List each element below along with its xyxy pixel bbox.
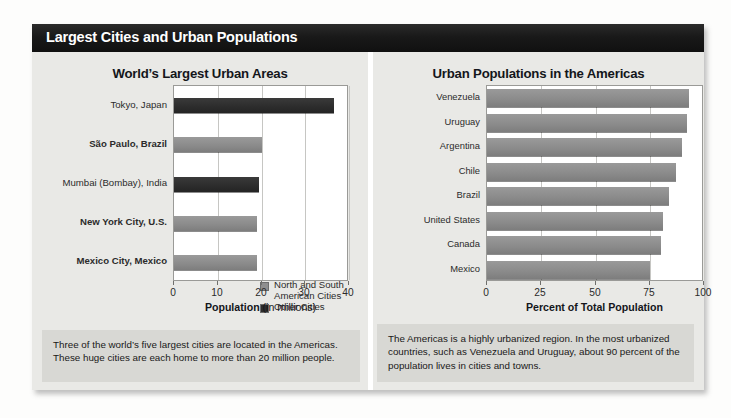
axis-tick-label: 25: [520, 287, 560, 298]
right-caption-text: The Americas is a highly urbanized regio…: [388, 332, 684, 372]
left-chart-plot-area: [173, 85, 348, 281]
bar: [174, 255, 257, 270]
category-label: Canada: [447, 238, 480, 250]
panel-body: World’s Largest Urban Areas North and So…: [32, 52, 704, 390]
bar: [174, 177, 259, 192]
category-label: United States: [424, 214, 480, 226]
category-label: Mexico City, Mexico: [77, 255, 167, 267]
axis-tick-label: 50: [575, 287, 615, 298]
axis-tick-mark: [649, 281, 650, 285]
category-label: New York City, U.S.: [80, 216, 167, 228]
bar: [174, 98, 334, 113]
right-caption-box: The Americas is a highly urbanized regio…: [377, 324, 694, 382]
right-chart-plot-area: [486, 85, 703, 281]
panel-titlebar: Largest Cities and Urban Populations: [32, 24, 704, 52]
left-caption-box: Three of the world’s five largest cities…: [42, 330, 360, 382]
bar: [487, 114, 687, 132]
gridline: [262, 86, 263, 280]
gridline: [349, 86, 350, 280]
axis-tick-label: 100: [683, 287, 723, 298]
bar: [174, 137, 262, 152]
axis-tick-label: 0: [153, 287, 193, 298]
category-label: Tokyo, Japan: [110, 99, 167, 111]
axis-tick-label: 40: [328, 287, 368, 298]
axis-tick-mark: [348, 281, 349, 285]
figure-panel: Largest Cities and Urban Populations Wor…: [32, 24, 704, 390]
left-axis-title-units: (in millions): [260, 301, 317, 313]
category-label: Uruguay: [445, 116, 480, 128]
axis-tick-mark: [304, 281, 305, 285]
axis-tick-mark: [540, 281, 541, 285]
axis-tick-label: 30: [284, 287, 324, 298]
category-label: Argentina: [440, 140, 480, 152]
right-axis-title-main: Percent of Total Population: [526, 301, 663, 313]
panel-title: Largest Cities and Urban Populations: [46, 29, 297, 45]
left-caption-text: Three of the world’s five largest cities…: [53, 338, 350, 365]
category-label: Chile: [459, 165, 480, 177]
left-axis-title-main: Population: [205, 301, 260, 313]
bar: [487, 261, 650, 279]
bar: [487, 163, 676, 181]
left-chart-title: World’s Largest Urban Areas: [32, 66, 368, 81]
axis-tick-mark: [261, 281, 262, 285]
axis-tick-label: 75: [629, 287, 669, 298]
axis-tick-mark: [595, 281, 596, 285]
bar: [487, 212, 663, 230]
axis-tick-label: 0: [466, 287, 506, 298]
axis-tick-mark: [173, 281, 174, 285]
category-label: Brazil: [457, 189, 480, 201]
category-label: São Paulo, Brazil: [89, 138, 167, 150]
gridline: [704, 86, 705, 280]
category-label: Venezuela: [436, 91, 480, 103]
gridline: [305, 86, 306, 280]
category-label: Mumbai (Bombay), India: [62, 177, 167, 189]
axis-tick-mark: [486, 281, 487, 285]
bar: [487, 236, 661, 254]
axis-tick-label: 10: [197, 287, 237, 298]
bar: [487, 89, 689, 107]
right-chart-title: Urban Populations in the Americas: [373, 66, 704, 81]
bar: [487, 187, 669, 205]
axis-tick-mark: [217, 281, 218, 285]
axis-tick-label: 20: [241, 287, 281, 298]
axis-tick-mark: [703, 281, 704, 285]
bar: [487, 138, 682, 156]
page-background: Largest Cities and Urban Populations Wor…: [0, 0, 731, 418]
category-label: Mexico: [450, 263, 480, 275]
bar: [174, 216, 257, 231]
right-chart-axis-title: Percent of Total Population: [486, 301, 703, 313]
left-chart-axis-title: Population (in millions): [173, 301, 348, 313]
